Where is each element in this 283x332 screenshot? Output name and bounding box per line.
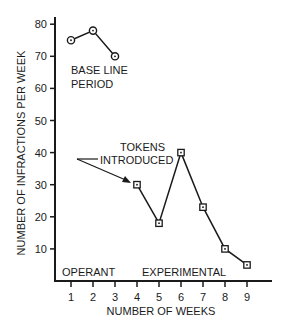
- y-tick-label: 50: [35, 115, 47, 127]
- experimental-label: EXPERIMENTAL: [142, 266, 226, 278]
- tokens-arrowhead-icon: [122, 176, 131, 183]
- line-chart: 1020304050607080 123456789 NUMBER OF INF…: [0, 0, 283, 332]
- x-axis-label: NUMBER OF WEEKS: [107, 305, 216, 317]
- x-tick-label: 1: [68, 291, 74, 303]
- y-tick-label: 10: [35, 243, 47, 255]
- y-tick-label: 30: [35, 179, 47, 191]
- x-tick-label: 5: [156, 291, 162, 303]
- y-tick-label: 40: [35, 147, 47, 159]
- y-tick-label: 60: [35, 82, 47, 94]
- x-tick-label: 9: [244, 291, 250, 303]
- baseline-label: BASE LINE: [71, 64, 128, 76]
- y-tick-label: 80: [35, 18, 47, 30]
- tokens-label: TOKENS: [120, 141, 165, 153]
- y-tick-label: 20: [35, 211, 47, 223]
- y-ticks: 1020304050607080: [35, 18, 55, 255]
- operant-label: OPERANT: [62, 266, 115, 278]
- y-axis-label: NUMBER OF INFRACTIONS PER WEEK: [15, 50, 27, 255]
- x-tick-label: 2: [90, 291, 96, 303]
- x-tick-label: 8: [222, 291, 228, 303]
- tokens-label-2: INTRODUCED: [100, 154, 173, 166]
- x-tick-label: 6: [178, 291, 184, 303]
- y-tick-label: 70: [35, 50, 47, 62]
- x-ticks: 123456789: [68, 281, 250, 303]
- x-tick-label: 3: [112, 291, 118, 303]
- series-line: [137, 153, 247, 265]
- x-tick-label: 7: [200, 291, 206, 303]
- baseline-label-2: PERIOD: [71, 78, 113, 90]
- x-tick-label: 4: [134, 291, 140, 303]
